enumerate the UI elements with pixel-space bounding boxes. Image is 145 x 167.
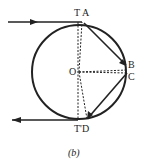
label-td: T'D: [74, 124, 89, 134]
label-o: O: [69, 67, 76, 77]
chord-ab: [84, 23, 126, 65]
label-b: B: [128, 60, 135, 70]
dashed-oc: [79, 72, 127, 73]
chord-cd: [88, 73, 127, 118]
circle-diagram: [0, 0, 145, 167]
caption: (b): [68, 148, 80, 158]
arrow-head-icon: [12, 117, 21, 123]
dashed-oa: [79, 22, 82, 72]
label-c: C: [128, 72, 135, 82]
dashed-od: [79, 72, 87, 119]
label-ta: T A: [74, 8, 89, 18]
arrow-head-icon: [30, 19, 38, 25]
